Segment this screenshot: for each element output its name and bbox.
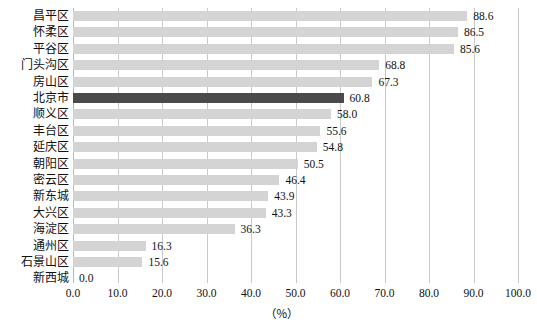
bar-value-label: 88.6 — [473, 8, 493, 24]
bar-value-label: 36.3 — [241, 221, 261, 237]
bar-value-label: 15.6 — [148, 254, 168, 270]
bar-row: 54.8 — [73, 139, 518, 155]
bar-row: 55.6 — [73, 123, 518, 139]
x-tick-label: 80.0 — [419, 287, 439, 300]
bar-row: 36.3 — [73, 221, 518, 237]
axis-unit-label: （％） — [0, 305, 537, 321]
bar-昌平区 — [73, 11, 467, 21]
bar-value-label: 50.5 — [304, 156, 324, 172]
bar-房山区 — [73, 77, 372, 87]
bar-怀柔区 — [73, 27, 458, 37]
bar-value-label: 60.8 — [350, 90, 370, 106]
bar-row: 50.5 — [73, 156, 518, 172]
bar-row: 60.8 — [73, 90, 518, 106]
bar-北京市 — [73, 93, 344, 103]
bar-value-label: 16.3 — [152, 238, 172, 254]
bar-row: 68.8 — [73, 57, 518, 73]
bar-row: 88.6 — [73, 8, 518, 24]
bar-rows: 88.686.585.668.867.360.858.055.654.850.5… — [73, 8, 518, 283]
x-tick-label: 40.0 — [241, 287, 261, 300]
bar-石景山区 — [73, 257, 142, 267]
bar-row: 43.3 — [73, 205, 518, 221]
bar-value-label: 55.6 — [326, 123, 346, 139]
category-label: 新东城 — [33, 188, 69, 204]
bar-row: 43.9 — [73, 188, 518, 204]
gridline-100.0 — [518, 8, 519, 283]
bar-value-label: 86.5 — [464, 24, 484, 40]
category-label: 大兴区 — [33, 205, 69, 221]
category-label: 丰台区 — [33, 123, 69, 139]
bar-value-label: 0.0 — [79, 270, 93, 286]
category-label: 门头沟区 — [21, 57, 69, 73]
bar-延庆区 — [73, 142, 317, 152]
category-label: 北京市 — [33, 90, 69, 106]
bar-row: 85.6 — [73, 41, 518, 57]
category-label: 平谷区 — [33, 41, 69, 57]
bar-value-label: 67.3 — [378, 74, 398, 90]
bar-丰台区 — [73, 126, 320, 136]
x-tick-label: 70.0 — [374, 287, 394, 300]
bar-value-label: 85.6 — [460, 41, 480, 57]
category-label: 通州区 — [33, 238, 69, 254]
x-tick-label: 0.0 — [66, 287, 80, 300]
x-tick-label: 50.0 — [285, 287, 305, 300]
x-tick-label: 20.0 — [152, 287, 172, 300]
bar-value-label: 58.0 — [337, 106, 357, 122]
bar-平谷区 — [73, 44, 454, 54]
x-tick-label: 60.0 — [330, 287, 350, 300]
bar-value-label: 43.3 — [272, 205, 292, 221]
bar-海淀区 — [73, 224, 235, 234]
category-label: 延庆区 — [33, 139, 69, 155]
bar-row: 67.3 — [73, 74, 518, 90]
bar-新东城 — [73, 191, 268, 201]
plot-area: 88.686.585.668.867.360.858.055.654.850.5… — [73, 8, 518, 283]
category-label: 海淀区 — [33, 221, 69, 237]
bar-row: 86.5 — [73, 24, 518, 40]
category-label: 昌平区 — [33, 8, 69, 24]
bar-row: 16.3 — [73, 238, 518, 254]
category-label: 朝阳区 — [33, 156, 69, 172]
bar-大兴区 — [73, 208, 266, 218]
horizontal-bar-chart: 昌平区怀柔区平谷区门头沟区房山区北京市顺义区丰台区延庆区朝阳区密云区新东城大兴区… — [0, 0, 537, 335]
category-label: 房山区 — [33, 74, 69, 90]
category-label: 顺义区 — [33, 106, 69, 122]
category-label: 密云区 — [33, 172, 69, 188]
bar-顺义区 — [73, 109, 331, 119]
category-label: 石景山区 — [21, 254, 69, 270]
category-label: 怀柔区 — [33, 24, 69, 40]
category-axis: 昌平区怀柔区平谷区门头沟区房山区北京市顺义区丰台区延庆区朝阳区密云区新东城大兴区… — [0, 8, 69, 283]
bar-row: 15.6 — [73, 254, 518, 270]
bar-value-label: 43.9 — [274, 188, 294, 204]
bar-门头沟区 — [73, 60, 379, 70]
bar-value-label: 46.4 — [285, 172, 305, 188]
axis-unit-text: （％） — [239, 308, 298, 320]
x-tick-label: 10.0 — [107, 287, 127, 300]
bar-row: 58.0 — [73, 106, 518, 122]
bar-密云区 — [73, 175, 279, 185]
bar-row: 0.0 — [73, 270, 518, 286]
bar-row: 46.4 — [73, 172, 518, 188]
x-tick-label: 90.0 — [463, 287, 483, 300]
bar-朝阳区 — [73, 159, 298, 169]
bar-通州区 — [73, 241, 146, 251]
x-tick-label: 100.0 — [505, 287, 531, 300]
x-tick-label: 30.0 — [196, 287, 216, 300]
category-label: 新西城 — [33, 270, 69, 286]
bar-value-label: 68.8 — [385, 57, 405, 73]
bar-value-label: 54.8 — [323, 139, 343, 155]
